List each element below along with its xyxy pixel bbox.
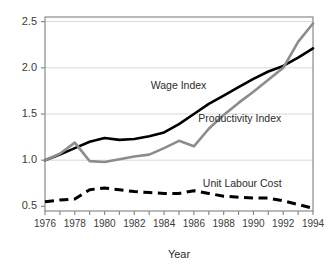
y-tick-label: 2.5 bbox=[22, 15, 37, 27]
series-label-wage-index: Wage Index bbox=[151, 79, 207, 91]
y-tick-label: 2.0 bbox=[22, 61, 37, 73]
x-tick-label: 1990 bbox=[242, 218, 265, 229]
x-tick-label: 1982 bbox=[123, 218, 146, 229]
y-tick-label: 1.5 bbox=[22, 107, 37, 119]
chart-background bbox=[0, 0, 329, 274]
x-tick-label: 1980 bbox=[93, 218, 116, 229]
chart-figure: 0.51.01.52.02.5 197619781980198219841986… bbox=[0, 0, 329, 274]
x-tick-label: 1976 bbox=[34, 218, 57, 229]
x-tick-label: 1986 bbox=[183, 218, 206, 229]
series-label-productivity-index: Productivity Index bbox=[198, 112, 282, 124]
series-label-unit-labour-cost: Unit Labour Cost bbox=[203, 177, 282, 189]
line-chart: 0.51.01.52.02.5 197619781980198219841986… bbox=[0, 0, 329, 274]
y-tick-label: 1.0 bbox=[22, 153, 37, 165]
y-tick-label: 0.5 bbox=[22, 199, 37, 211]
x-tick-label: 1984 bbox=[153, 218, 176, 229]
x-tick-label: 1978 bbox=[64, 218, 87, 229]
x-tick-label: 1988 bbox=[213, 218, 236, 229]
x-tick-label: 1994 bbox=[302, 218, 325, 229]
x-tick-label: 1992 bbox=[272, 218, 295, 229]
x-axis-title: Year bbox=[168, 248, 191, 260]
